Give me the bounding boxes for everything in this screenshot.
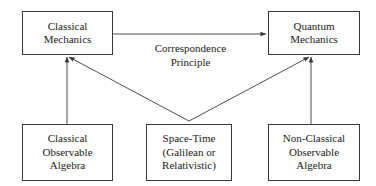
diagram-canvas: Classical Mechanics Quantum Mechanics Cl… [0, 0, 376, 186]
node-non-classical-observable-algebra: Non-Classical Observable Algebra [268, 124, 360, 181]
node-quantum-mechanics: Quantum Mechanics [268, 11, 360, 55]
node-classical-observable-algebra: Classical Observable Algebra [22, 124, 113, 181]
node-classical-observable-algebra-label: Classical Observable Algebra [39, 132, 95, 173]
node-non-classical-observable-algebra-label: Non-Classical Observable Algebra [280, 132, 348, 173]
node-space-time-label: Space-Time (Galilean or Relativistic) [159, 132, 219, 173]
node-classical-mechanics: Classical Mechanics [22, 11, 113, 55]
edge-label-correspondence-principle: Correspondence Principle [130, 42, 251, 69]
node-classical-mechanics-label: Classical Mechanics [41, 20, 95, 47]
node-quantum-mechanics-label: Quantum Mechanics [287, 20, 341, 47]
node-space-time: Space-Time (Galilean or Relativistic) [146, 124, 232, 181]
